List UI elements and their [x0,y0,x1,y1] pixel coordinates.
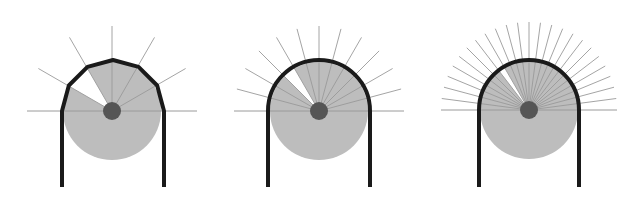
arch-approximation-diagram [0,0,634,208]
panel-medium [234,26,404,187]
hub [103,102,121,120]
hub [310,102,328,120]
panel-fine [441,22,617,187]
hub [520,101,538,119]
panel-coarse [27,26,197,187]
